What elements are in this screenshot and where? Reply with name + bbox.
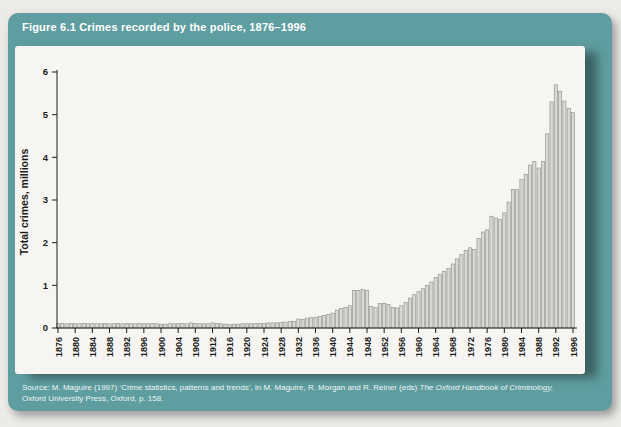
x-tick-label-1956: 1956 (397, 337, 407, 357)
y-tick-label-4: 4 (43, 152, 49, 163)
bar-1885 (95, 324, 98, 328)
x-tick-label-1892: 1892 (122, 337, 132, 357)
x-tick-label-1888: 1888 (105, 337, 115, 357)
bar-1910 (202, 324, 205, 328)
bar-1992 (554, 85, 557, 328)
bar-1996 (571, 113, 574, 328)
bar-1903 (172, 324, 175, 328)
bar-1938 (322, 315, 325, 328)
bar-1921 (250, 324, 253, 328)
bar-1920 (245, 324, 248, 328)
x-tick-label-1904: 1904 (174, 337, 184, 357)
bar-1961 (421, 289, 424, 328)
y-tick-label-2: 2 (43, 237, 48, 248)
bar-1928 (280, 322, 283, 328)
x-tick-label-1976: 1976 (483, 337, 493, 357)
figure-title: Figure 6.1 Crimes recorded by the police… (22, 21, 602, 33)
x-tick-label-1900: 1900 (157, 337, 167, 357)
bar-1937 (318, 316, 321, 328)
bar-1965 (438, 274, 441, 328)
bar-1962 (425, 285, 428, 328)
y-tick-label-1: 1 (43, 280, 49, 291)
bar-1906 (185, 324, 188, 328)
bar-1922 (254, 323, 257, 328)
x-tick-label-1908: 1908 (191, 337, 201, 357)
bar-1951 (378, 304, 381, 328)
bar-1990 (546, 134, 549, 328)
source-note: Source: M. Maguire (1997) ‘Crime statist… (22, 382, 596, 404)
bar-1914 (219, 324, 222, 328)
bar-1953 (387, 305, 390, 328)
bar-1993 (559, 91, 562, 328)
x-tick-label-1932: 1932 (294, 337, 304, 357)
bar-1877 (61, 323, 64, 328)
bar-1883 (86, 324, 89, 328)
x-tick-label-1920: 1920 (242, 337, 252, 357)
bar-1886 (99, 324, 102, 328)
x-tick-label-1940: 1940 (328, 337, 338, 357)
bar-1963 (430, 282, 433, 328)
bar-1974 (477, 238, 480, 328)
bar-1888 (108, 324, 111, 328)
x-tick-label-1876: 1876 (54, 337, 64, 357)
bar-1878 (65, 324, 68, 328)
bars (56, 85, 574, 328)
axes: 0123456187618801884188818921896190019041… (43, 66, 579, 357)
bar-1891 (121, 324, 124, 328)
x-tick-label-1992: 1992 (551, 337, 561, 357)
bar-1956 (400, 306, 403, 328)
bar-1917 (232, 324, 235, 328)
bar-1967 (447, 268, 450, 328)
bar-1986 (528, 165, 531, 328)
bar-1902 (168, 324, 171, 328)
bar-1895 (138, 323, 141, 328)
x-tick-label-1960: 1960 (414, 337, 424, 357)
bar-1899 (155, 324, 158, 328)
bar-1930 (288, 322, 291, 328)
bar-1894 (134, 324, 137, 328)
x-tick-label-1884: 1884 (88, 337, 98, 357)
x-tick-label-1948: 1948 (363, 337, 373, 357)
bar-1950 (374, 308, 377, 328)
x-tick-label-1880: 1880 (71, 337, 81, 357)
bar-1945 (353, 290, 356, 328)
bar-1889 (112, 324, 115, 328)
bar-1932 (297, 319, 300, 328)
x-tick-label-1968: 1968 (448, 337, 458, 357)
source-line1-italic: The Oxford Handbook of Criminology, (420, 383, 554, 392)
bar-1984 (520, 180, 523, 328)
bar-1988 (537, 168, 540, 328)
source-line1-regular: Source: M. Maguire (1997) ‘Crime statist… (22, 383, 420, 392)
bar-1936 (314, 317, 317, 328)
bar-1931 (292, 321, 295, 328)
bar-1911 (207, 324, 210, 328)
bar-1969 (456, 259, 459, 328)
bar-1981 (507, 202, 510, 328)
bar-1913 (215, 323, 218, 328)
bar-1970 (460, 255, 463, 328)
y-tick-label-6: 6 (43, 66, 48, 77)
bar-1884 (91, 323, 94, 328)
bar-1980 (503, 213, 506, 328)
x-tick-label-1936: 1936 (311, 337, 321, 357)
bar-1879 (69, 323, 72, 328)
x-tick-label-1928: 1928 (277, 337, 287, 357)
x-tick-label-1944: 1944 (345, 337, 355, 357)
x-tick-label-1984: 1984 (517, 337, 527, 357)
chart-panel: Total crimes, millions 01234561876188018… (15, 46, 585, 374)
bar-1959 (413, 295, 416, 328)
bar-1924 (262, 323, 265, 328)
bar-1991 (550, 102, 553, 328)
bar-1955 (395, 308, 398, 328)
x-tick-label-1972: 1972 (466, 337, 476, 357)
bar-1947 (361, 290, 364, 328)
x-tick-label-1916: 1916 (225, 337, 235, 357)
bar-1940 (331, 313, 334, 328)
bar-1968 (451, 264, 454, 328)
bar-1983 (516, 190, 519, 328)
bar-1935 (310, 318, 313, 328)
bar-1907 (189, 323, 192, 328)
bar-1973 (473, 249, 476, 328)
x-tick-label-1964: 1964 (431, 337, 441, 357)
bar-1918 (237, 324, 240, 328)
